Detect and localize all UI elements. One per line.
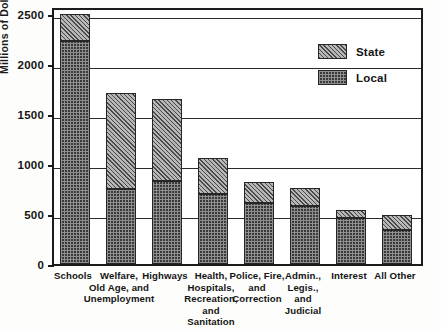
bar-segment-state [244,182,274,203]
bar-segment-state [290,188,320,206]
bar-segment-local [152,181,182,264]
bar-segment-local [244,203,274,264]
x-axis-tick-label-line: Old Age, and [80,282,158,294]
bar-segment-local [60,41,90,264]
y-axis-tick-label: 1000 [4,159,44,171]
gridline [54,68,421,69]
gridline [54,18,421,19]
bar-segment-state [106,93,136,189]
chart-figure: Millions of Dollars 05001000150020002500… [0,0,441,330]
y-axis-tick-label: 500 [4,209,44,221]
bar-segment-local [382,230,412,264]
bar-segment-local [198,194,228,264]
x-axis-tick-label: All Other [356,270,434,282]
bar-segment-state [60,14,90,41]
bar[interactable] [336,210,366,264]
x-axis-tick-label-line: and [172,305,250,317]
legend-swatch [318,70,347,85]
y-axis-tick-label: 2500 [4,9,44,21]
bar-segment-local [290,206,320,264]
x-axis-tick-label-line: and [264,293,342,305]
legend-swatch [318,44,347,59]
bar[interactable] [290,188,320,264]
legend-label: Local [356,72,387,84]
bar-segment-local [106,189,136,264]
bar[interactable] [60,14,90,264]
bar[interactable] [152,99,182,264]
y-axis-tick-label: 2000 [4,59,44,71]
legend-item[interactable]: State [318,44,385,59]
bar-segment-state [198,158,228,194]
x-axis-tick-label-line: Judicial [264,305,342,317]
bar-segment-state [336,210,366,218]
bar[interactable] [198,158,228,264]
bar-segment-state [382,215,412,230]
bar-segment-local [336,218,366,264]
x-axis-tick-label-line: Legis., [264,282,342,294]
legend-label: State [356,46,385,58]
bar[interactable] [244,182,274,264]
legend-item[interactable]: Local [318,70,387,85]
bar[interactable] [106,93,136,264]
x-axis-tick-label-line: All Other [356,270,434,282]
y-axis-tick-label: 1500 [4,109,44,121]
bar-segment-state [152,99,182,181]
x-axis-tick-label-line: Unemployment [80,293,158,305]
x-axis-tick-label-line: Sanitation [172,316,250,328]
bar[interactable] [382,215,412,264]
